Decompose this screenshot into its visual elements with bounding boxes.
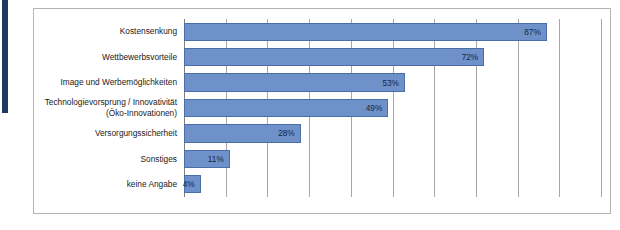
bar-value-label: 28% [278,128,300,138]
bar-value-label: 53% [382,78,404,88]
bar-value-label: 11% [208,154,229,164]
bar[interactable]: 53% [184,73,405,91]
category-label: Versorgungssicherheit [34,128,184,139]
bar[interactable]: 28% [184,124,301,142]
bar-track: 53% [184,70,601,95]
bar-track: 28% [184,121,601,146]
bar-value-label: 4% [183,179,200,189]
accent-bar [2,0,8,113]
bar-rows: Kostensenkung87%Wettbewerbsvorteile72%Im… [34,19,601,197]
category-label: Kostensenkung [34,26,184,37]
bar[interactable]: 72% [184,48,484,66]
category-label: Technologievorsprung / Innovativität (Ök… [34,97,184,118]
bar-value-label: 49% [366,103,388,113]
category-label: Sonstiges [34,154,184,165]
bar-track: 4% [184,172,601,197]
bar[interactable]: 11% [184,150,230,168]
bar-row: Image und Werbemöglichkeiten53% [34,70,601,95]
chart-screenshot: Kostensenkung87%Wettbewerbsvorteile72%Im… [0,0,620,230]
bar-track: 87% [184,19,601,44]
bar[interactable]: 4% [184,175,201,193]
bar[interactable]: 87% [184,23,547,41]
category-label: Wettbewerbsvorteile [34,52,184,63]
bar-row: Sonstiges11% [34,146,601,171]
bar-track: 72% [184,44,601,69]
bar-row: keine Angabe4% [34,172,601,197]
bar-row: Kostensenkung87% [34,19,601,44]
category-label: keine Angabe [34,179,184,190]
gridline [601,19,602,197]
bar-row: Technologievorsprung / Innovativität (Ök… [34,95,601,120]
bar[interactable]: 49% [184,99,388,117]
bar-value-label: 72% [462,52,484,62]
bar-value-label: 87% [524,27,546,37]
bar-track: 49% [184,95,601,120]
bar-row: Versorgungssicherheit28% [34,121,601,146]
bar-track: 11% [184,146,601,171]
category-label: Image und Werbemöglichkeiten [34,77,184,88]
chart-frame: Kostensenkung87%Wettbewerbsvorteile72%Im… [33,8,611,214]
bar-row: Wettbewerbsvorteile72% [34,44,601,69]
